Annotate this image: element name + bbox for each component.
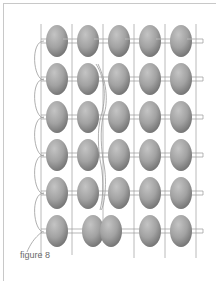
figure-caption: figure 8 (20, 250, 50, 260)
beads (46, 25, 192, 247)
left-loops (27, 41, 44, 252)
